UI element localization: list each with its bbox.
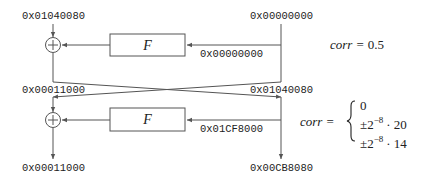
- feistel-diagram: 0x01040080 0x00000000 F 0x00000000 corr=…: [0, 0, 440, 182]
- middle-right-label: 0x01040080: [250, 84, 313, 96]
- corr-case-1: ±2−8· 20: [360, 115, 407, 132]
- svg-text:corr=: corr=: [300, 114, 334, 129]
- round2-f-output-label: 0x01CF8000: [200, 123, 263, 135]
- round2-f-label: F: [142, 112, 152, 127]
- corr-case-0: 0: [360, 98, 367, 113]
- output-right-label: 0x00CB8080: [250, 162, 313, 174]
- xor-icon: [46, 38, 61, 53]
- corr-case-2: ±2−8· 14: [360, 134, 407, 151]
- round2-corr: corr= 0 ±2−8· 20 ±2−8· 14: [300, 98, 407, 151]
- middle-left-label: 0x00011000: [22, 84, 85, 96]
- output-left-label: 0x00011000: [22, 162, 85, 174]
- left-brace-icon: [347, 101, 355, 141]
- round1-input-left-label: 0x01040080: [22, 10, 85, 22]
- round1-f-output-label: 0x00000000: [200, 48, 263, 60]
- round1-input-right-label: 0x00000000: [250, 10, 313, 22]
- xor-icon: [46, 113, 61, 128]
- round1-f-label: F: [142, 38, 152, 53]
- round1-corr: corr=0.5: [330, 37, 384, 52]
